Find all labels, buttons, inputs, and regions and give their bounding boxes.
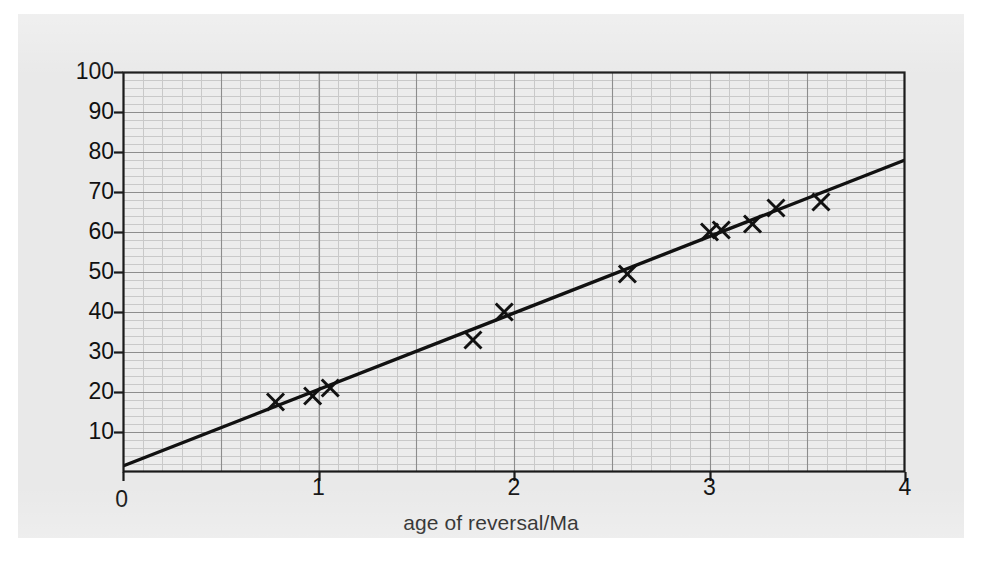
y-tick-label: 100 [56, 60, 114, 83]
x-tick-label: 4 [885, 476, 925, 499]
y-tick-label: 20 [56, 380, 114, 403]
y-tick-label: 80 [56, 140, 114, 163]
axis-frame [109, 72, 909, 492]
x-tick-label: 1 [299, 476, 339, 499]
y-tick-label: 30 [56, 340, 114, 363]
y-tick-label: 90 [56, 100, 114, 123]
x-tick-label: 3 [690, 476, 730, 499]
y-tick-label: 50 [56, 260, 114, 283]
y-tick-label: 60 [56, 220, 114, 243]
plot-wrapper [123, 72, 905, 472]
x-axis-title: age of reversal/Ma [18, 511, 964, 535]
y-tick-label: 40 [56, 300, 114, 323]
x-axis-tick-labels: 1234 [123, 476, 905, 510]
y-tick-label: 70 [56, 180, 114, 203]
x-tick-label: 2 [494, 476, 534, 499]
figure-panel: 1020304050607080901000 separation distan… [18, 14, 964, 538]
y-tick-label: 10 [56, 420, 114, 443]
y-axis-tick-labels: 1020304050607080901000 [48, 72, 114, 472]
